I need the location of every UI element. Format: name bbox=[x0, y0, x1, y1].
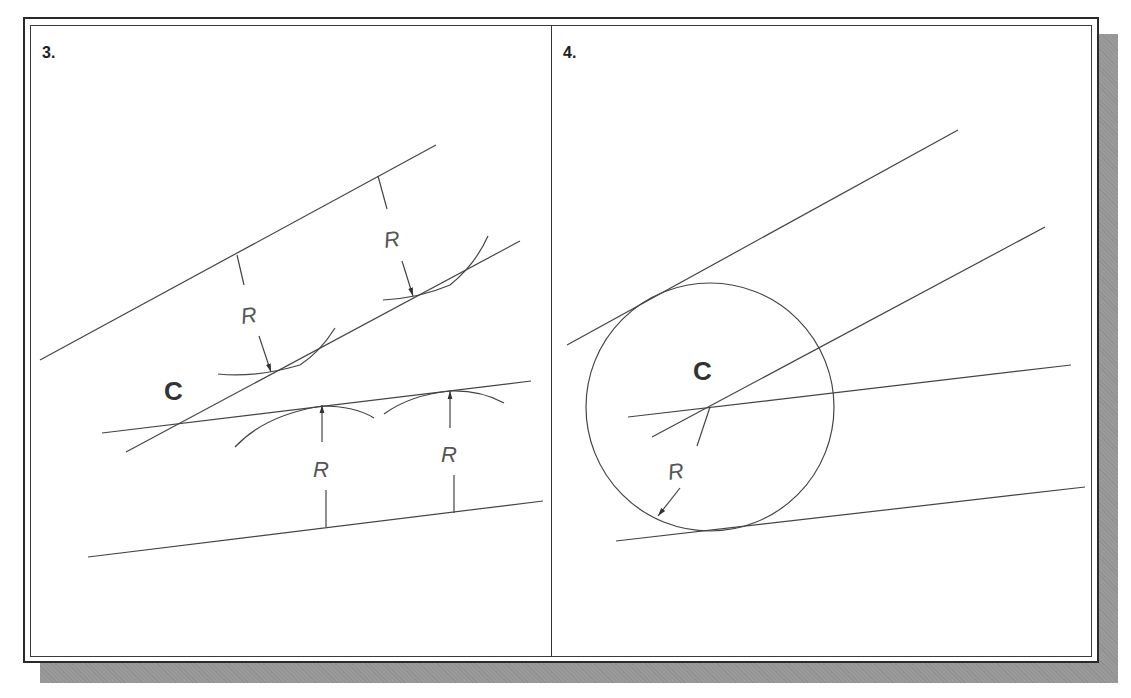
line-upper-offset bbox=[40, 145, 436, 360]
panel-3-radius-label-2: R bbox=[382, 226, 401, 253]
panel-3-center-label: C bbox=[164, 376, 183, 406]
panel-3-drawing bbox=[40, 145, 543, 557]
arc-1 bbox=[218, 328, 335, 375]
line-original-shallow bbox=[88, 501, 543, 557]
dim-line-1a bbox=[237, 255, 244, 285]
arc-3 bbox=[235, 406, 374, 447]
construction-drawing: C R R R R C R bbox=[0, 0, 1131, 698]
panel-4-center-label: C bbox=[693, 356, 712, 386]
panel-4-drawing bbox=[567, 130, 1085, 541]
line-original-steep bbox=[126, 241, 520, 452]
panel-4-radius-label: R bbox=[666, 458, 685, 485]
panel-3-radius-label-3: R bbox=[313, 457, 329, 482]
dim-line-2a bbox=[378, 176, 387, 209]
radius-line-a bbox=[697, 407, 710, 446]
line-steep-center bbox=[652, 227, 1045, 437]
dim-line-2b bbox=[402, 261, 413, 296]
radius-line-b bbox=[658, 488, 680, 516]
line-upper-tangent bbox=[567, 130, 958, 345]
panel-3-radius-label-4: R bbox=[441, 442, 457, 467]
panel-3-radius-label-1: R bbox=[239, 302, 258, 329]
dim-line-1b bbox=[259, 336, 271, 372]
arc-4 bbox=[384, 391, 504, 414]
line-bottom-tangent bbox=[616, 487, 1085, 541]
